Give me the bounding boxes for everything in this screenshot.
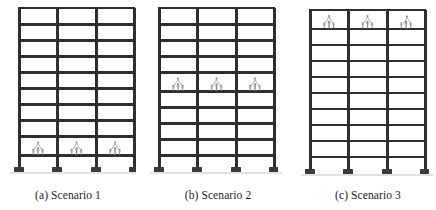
occupant-load-group-a	[32, 141, 121, 155]
caption-scenario-2: (b) Scenario 2	[150, 188, 286, 202]
frame-panel-a	[0, 0, 136, 180]
occupant-cluster	[249, 77, 261, 91]
occupant-cluster	[172, 77, 184, 91]
occupant-cluster	[400, 15, 412, 28]
occupant-load-group-c	[323, 15, 412, 29]
occupant-cluster	[109, 141, 121, 155]
base-supports-c	[301, 169, 433, 175]
figure-container: (a) Scenario 1 (b) Scenario 2 (c) Scenar…	[0, 0, 436, 210]
frame-diagram-c	[300, 0, 436, 180]
occupant-cluster	[32, 141, 44, 155]
base-supports-b	[150, 167, 282, 173]
frames-row	[0, 0, 436, 180]
occupant-cluster	[210, 77, 222, 91]
frame-diagram-b	[150, 0, 286, 180]
caption-scenario-3: (c) Scenario 3	[300, 188, 436, 202]
frame-panel-c	[300, 0, 436, 180]
frame-diagram-a	[0, 0, 136, 180]
caption-scenario-1: (a) Scenario 1	[0, 188, 136, 202]
frame-geometry-c	[309, 10, 426, 170]
captions-row: (a) Scenario 1 (b) Scenario 2 (c) Scenar…	[0, 180, 436, 210]
base-supports-a	[10, 167, 136, 173]
occupant-cluster	[323, 15, 335, 29]
occupant-load-group-b	[172, 77, 261, 91]
occupant-cluster	[361, 15, 373, 29]
occupant-cluster	[70, 141, 82, 155]
frame-panel-b	[150, 0, 286, 180]
